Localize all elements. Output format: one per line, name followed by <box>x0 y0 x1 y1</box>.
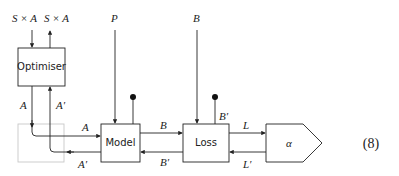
label-sxa-in: S × A <box>12 12 37 24</box>
label-p: P <box>110 12 118 24</box>
label-opt-aprime: A′ <box>55 99 66 111</box>
label-b: B <box>193 12 200 24</box>
label-opt-a: A <box>19 99 27 111</box>
loss-discard-dot <box>212 94 218 100</box>
model-discard-dot <box>130 94 136 100</box>
label-sxa-out: S × A <box>44 12 69 24</box>
diagram-canvas: S × A S × A P B Optimiser A A A′ A′ Mode… <box>0 0 399 176</box>
alpha-label: α <box>286 137 292 149</box>
ghost-box <box>18 124 64 162</box>
label-model-b: B <box>160 119 167 131</box>
loss-label: Loss <box>195 137 217 148</box>
optimiser-label: Optimiser <box>17 61 67 72</box>
label-model-out-aprime: A′ <box>77 158 88 170</box>
label-alpha-lprime: L′ <box>242 158 252 170</box>
label-model-in-a: A <box>81 121 89 133</box>
model-label: Model <box>105 137 135 148</box>
wire-aprime-to-optimiser <box>50 87 101 152</box>
wire-a-to-model <box>32 86 100 136</box>
label-loss-side-bprime: B′ <box>219 110 229 122</box>
alpha-box <box>266 124 322 162</box>
label-loss-bprime: B′ <box>160 156 170 168</box>
label-loss-l: L <box>242 119 249 131</box>
equation-number: (8) <box>363 136 380 152</box>
